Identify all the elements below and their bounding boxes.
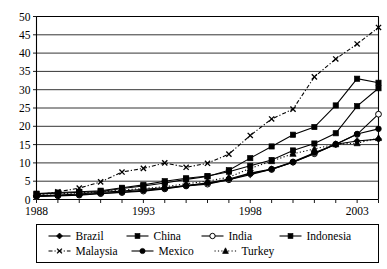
y-tick-label: 5 <box>25 175 31 187</box>
data-point-marker-circle-open <box>376 111 382 117</box>
series-india <box>34 111 382 199</box>
legend-label: China <box>154 230 181 242</box>
data-point-marker-x <box>248 133 253 138</box>
y-tick-label: 35 <box>19 65 31 77</box>
y-tick-label: 25 <box>19 102 31 114</box>
data-point-marker-x <box>269 116 274 121</box>
data-point-marker-x <box>226 152 231 157</box>
data-point-marker-square <box>312 124 317 129</box>
y-tick-label: 45 <box>19 29 31 41</box>
data-point-marker-x <box>290 106 295 111</box>
x-tick-label: 1988 <box>25 205 48 217</box>
y-axis-ticks: 05101520253035404550 <box>19 11 37 206</box>
data-point-marker-circle-filled <box>354 131 360 137</box>
data-point-marker-square <box>226 168 231 173</box>
legend-label: Turkey <box>242 245 275 258</box>
legend-label: Mexico <box>159 245 194 257</box>
series-malaysia <box>34 25 381 198</box>
x-axis-ticks: 1988199319982003 <box>25 200 379 218</box>
x-tick-label: 1993 <box>132 205 155 217</box>
data-point-marker-square <box>288 234 293 239</box>
chart-container: 05101520253035404550 1988199319982003 Br… <box>0 0 387 269</box>
y-tick-label: 20 <box>19 120 31 132</box>
data-point-marker-x <box>119 169 124 174</box>
legend-label: Malaysia <box>76 245 118 258</box>
data-point-marker-x <box>355 41 360 46</box>
series-line <box>37 27 379 195</box>
chart-legend: BrazilChinaIndiaIndonesiaMalaysiaMexicoT… <box>37 225 379 263</box>
data-point-marker-circle-filled <box>376 126 382 132</box>
data-point-marker-square <box>135 234 140 239</box>
legend-label: India <box>229 230 253 242</box>
x-tick-label: 2003 <box>346 205 369 217</box>
data-point-marker-circle-filled <box>269 166 275 172</box>
line-chart: 05101520253035404550 1988199319982003 Br… <box>0 0 387 269</box>
data-point-marker-x <box>98 179 103 184</box>
data-point-marker-square <box>355 104 360 109</box>
data-point-marker-square <box>290 132 295 137</box>
data-point-marker-circle-filled <box>140 248 145 253</box>
gridlines-group <box>37 17 379 182</box>
data-point-marker-x <box>333 56 338 61</box>
y-tick-label: 40 <box>19 47 31 59</box>
data-point-marker-circle-filled <box>290 159 296 165</box>
y-tick-label: 0 <box>25 194 31 206</box>
data-point-marker-x <box>312 74 317 79</box>
data-series-group <box>33 25 381 200</box>
data-point-marker-square <box>248 156 253 161</box>
data-point-marker-square <box>269 144 274 149</box>
series-brazil <box>33 136 381 199</box>
data-point-marker-square <box>355 76 360 81</box>
legend-label: Indonesia <box>307 230 352 242</box>
y-tick-label: 30 <box>19 84 31 96</box>
data-point-marker-square <box>376 86 381 91</box>
x-tick-label: 1998 <box>239 205 262 217</box>
legend-label: Brazil <box>76 230 104 242</box>
y-tick-label: 10 <box>19 157 31 169</box>
y-tick-label: 50 <box>19 11 31 23</box>
data-point-marker-square <box>376 80 381 85</box>
series-turkey <box>33 135 381 197</box>
data-point-marker-square <box>333 103 338 108</box>
data-point-marker-circle-open <box>210 233 215 238</box>
y-tick-label: 15 <box>19 139 31 151</box>
data-point-marker-square <box>333 131 338 136</box>
